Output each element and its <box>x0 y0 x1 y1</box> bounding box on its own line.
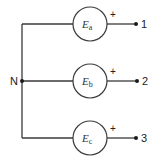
terminal-1-label: 1 <box>141 18 147 30</box>
phase-a-branch: Ea + 1 <box>22 7 147 41</box>
source-b-polarity: + <box>110 66 116 77</box>
terminal-3-label: 3 <box>141 132 147 144</box>
source-a-polarity: + <box>110 9 116 20</box>
three-phase-wye-diagram: Ea + 1 Eb + 2 Ec + 3 N <box>0 0 159 167</box>
terminal-2-label: 2 <box>142 75 148 87</box>
terminal-3-dot <box>134 136 138 140</box>
neutral-label: N <box>10 75 18 87</box>
terminal-1-dot <box>134 22 138 26</box>
phase-c-branch: Ec + 3 <box>22 121 147 155</box>
phase-b-branch: Eb + 2 <box>22 64 148 98</box>
source-c-polarity: + <box>110 123 116 134</box>
terminal-2-dot <box>135 79 139 83</box>
neutral-node-dot <box>20 79 24 83</box>
